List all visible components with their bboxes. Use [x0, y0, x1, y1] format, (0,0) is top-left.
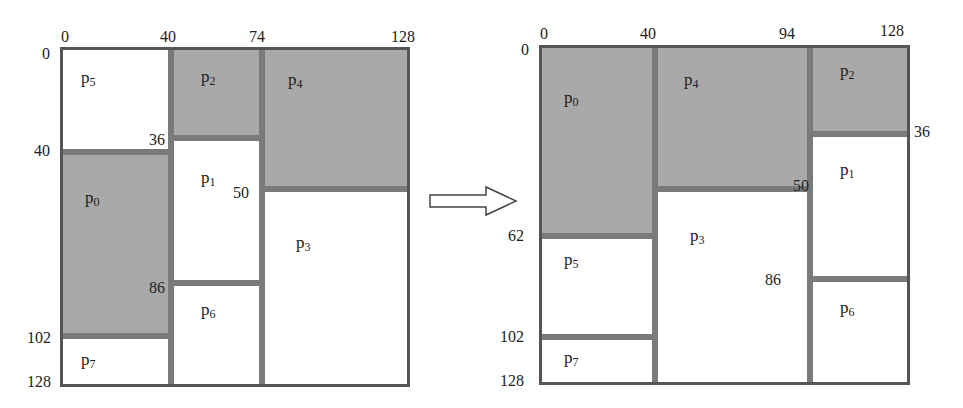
y-tick: 40: [34, 143, 50, 159]
divider: [262, 186, 407, 192]
partition-label: p3: [690, 226, 705, 248]
divider: [810, 276, 907, 282]
right-partition-grid: p0 p5 p7 p4 p3 p2 p1 p6: [539, 45, 910, 385]
divider: [63, 149, 170, 155]
partition-label: p3: [296, 233, 311, 255]
partition-label: p6: [840, 298, 855, 320]
right-arrow-icon: [428, 185, 518, 217]
partition-label: p0: [85, 188, 100, 210]
partition-p5: [542, 236, 655, 338]
divider: [170, 135, 262, 141]
x-tick: 40: [160, 29, 176, 45]
divider: [807, 48, 813, 382]
partition-p7: [63, 335, 170, 384]
partition-p6: [810, 278, 907, 382]
divider: [170, 280, 262, 286]
boundary-label: 50: [793, 178, 809, 194]
partition-p6: [170, 280, 262, 384]
y-tick: 0: [521, 42, 529, 58]
y-tick: 102: [27, 330, 51, 346]
partition-p0: [542, 48, 655, 236]
divider: [810, 131, 907, 137]
x-tick: 74: [249, 29, 265, 45]
partition-p0: [63, 152, 170, 335]
partition-label: p7: [81, 350, 96, 372]
partition-label: p5: [81, 68, 96, 90]
partition-p2: [810, 48, 907, 136]
x-tick: 0: [61, 29, 69, 45]
x-tick: 128: [880, 23, 904, 39]
partition-label: p0: [564, 88, 579, 110]
divider: [259, 50, 265, 384]
divider: [542, 334, 655, 340]
boundary-label: 86: [765, 272, 781, 288]
partition-p4: [262, 50, 407, 188]
divider: [655, 186, 810, 192]
x-tick: 40: [640, 26, 656, 42]
boundary-label: 50: [233, 185, 249, 201]
partition-p1: [810, 136, 907, 278]
partition-p7: [542, 338, 655, 382]
partition-p3: [655, 190, 810, 382]
y-tick: 128: [500, 373, 524, 389]
boundary-label: 36: [914, 124, 930, 140]
partition-p4: [655, 48, 810, 190]
divider: [652, 48, 658, 382]
x-tick: 128: [391, 29, 415, 45]
divider: [542, 233, 655, 239]
partition-label: p7: [564, 348, 579, 370]
y-tick: 128: [27, 374, 51, 390]
partition-label: p1: [840, 160, 855, 182]
partition-label: p2: [201, 67, 216, 89]
x-tick: 94: [779, 26, 795, 42]
partition-label: p6: [201, 300, 216, 322]
partition-p3: [262, 188, 407, 384]
y-tick: 0: [42, 46, 50, 62]
left-partition-grid: p5 p0 p7 p2 p1 p6 p4 p3 36 50 86: [60, 47, 410, 387]
partition-p2: [170, 50, 262, 138]
boundary-label: 86: [149, 280, 165, 296]
x-tick: 0: [540, 26, 548, 42]
divider: [63, 333, 170, 339]
partition-label: p5: [564, 250, 579, 272]
partition-label: p4: [684, 70, 699, 92]
boundary-label: 36: [149, 132, 165, 148]
partition-label: p1: [201, 168, 216, 190]
partition-label: p4: [288, 70, 303, 92]
partition-label: p2: [840, 61, 855, 83]
y-tick: 102: [500, 329, 524, 345]
partition-p1: [170, 138, 262, 280]
y-tick: 62: [508, 228, 524, 244]
